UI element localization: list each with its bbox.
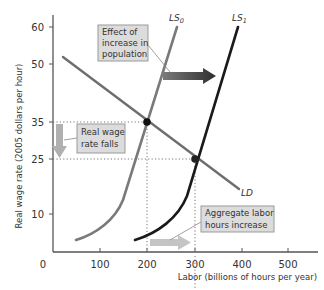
y-tick-35: 35	[31, 117, 44, 128]
x-tick-400: 400	[232, 259, 251, 270]
x-axis-title: Labor (billions of hours per year)	[178, 272, 317, 282]
x-tick-500: 500	[278, 259, 297, 270]
y-axis-title: Real wage rate (2005 dollars per hour)	[14, 64, 24, 229]
ld-label: LD	[241, 188, 253, 198]
svg-text:Real wage: Real wage	[81, 127, 125, 137]
svg-text:rate falls: rate falls	[81, 139, 119, 149]
hours-right-arrow-icon	[150, 235, 191, 250]
initial-equilibrium-point	[143, 118, 151, 126]
x-tick-300: 300	[185, 259, 204, 270]
x-tick-100: 100	[90, 259, 109, 270]
callout-wage: Real wage rate falls	[64, 124, 125, 153]
svg-text:hours increase: hours increase	[205, 220, 267, 230]
new-equilibrium-point	[191, 155, 199, 163]
svg-text:population: population	[102, 49, 147, 59]
y-tick-25: 25	[31, 154, 44, 165]
y-tick-50: 50	[31, 59, 44, 70]
y-tick-10: 10	[31, 209, 44, 220]
supply-shift-arrow-icon	[163, 68, 216, 84]
origin-label: 0	[40, 259, 46, 270]
svg-text:increase in: increase in	[102, 38, 148, 48]
ls0-label: LS0	[169, 13, 184, 25]
callout-effect: Effect of increase in population	[98, 25, 170, 72]
wage-down-arrow-icon	[52, 124, 67, 158]
ls1-label: LS1	[232, 13, 247, 25]
labor-market-chart: Real wage rate (2005 dollars per hour) 6…	[0, 0, 324, 290]
callout-hours: Aggregate labor hours increase	[170, 206, 274, 240]
y-tick-60: 60	[31, 22, 44, 33]
svg-text:Aggregate labor: Aggregate labor	[205, 208, 274, 218]
x-tick-200: 200	[137, 259, 156, 270]
svg-text:Effect of: Effect of	[102, 27, 138, 37]
